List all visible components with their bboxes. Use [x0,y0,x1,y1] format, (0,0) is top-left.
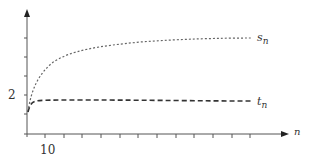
y-tick-label: 2 [8,88,16,102]
legend-t-n-sub: n [261,100,267,110]
legend-s-n-sub: n [263,36,269,46]
legend-s-n: sn [257,31,268,46]
y-axis-arrow-icon [24,9,30,17]
series-t-n [28,100,252,112]
chart-canvas [0,0,314,162]
x-axis-arrow-icon [281,131,289,137]
x-axis-label: n [294,126,300,137]
x-tick-label: 10 [40,143,55,157]
chart: 2 10 sn tn n [0,0,314,162]
legend-t-n: tn [257,95,267,110]
x-ticks [45,134,250,138]
